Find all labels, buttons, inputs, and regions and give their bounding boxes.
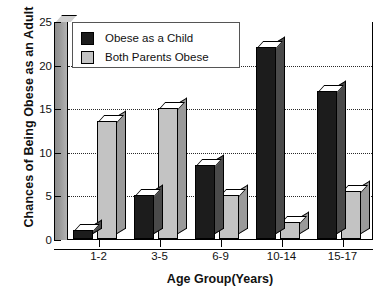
y-tick-label: 20	[0, 60, 52, 72]
bar-front-face	[195, 165, 215, 239]
axis-wall-3d	[54, 22, 68, 240]
bar-side-face	[178, 98, 187, 234]
y-axis-title: Chances of Being Obese as an Adult	[22, 0, 36, 242]
y-tick-label: 0	[0, 234, 52, 246]
y-tick-mark	[54, 22, 61, 23]
legend-item: Both Parents Obese	[81, 48, 231, 66]
bar-front-face	[317, 91, 337, 239]
y-tick-label: 25	[0, 16, 52, 28]
legend-item: Obese as a Child	[81, 29, 231, 47]
bar-front-face	[73, 230, 93, 239]
y-tick-label: 15	[0, 103, 52, 115]
axis-floor	[54, 240, 373, 250]
x-axis-title: Age Group(Years)	[60, 272, 380, 286]
legend-swatch-icon	[81, 51, 94, 64]
legend: Obese as a Child Both Parents Obese	[72, 22, 240, 68]
bar	[317, 91, 337, 239]
x-tick-mark	[221, 240, 222, 247]
x-tick-label: 1-2	[90, 250, 107, 262]
y-tick-mark	[54, 109, 61, 110]
bar	[195, 165, 215, 239]
bar-side-face	[337, 80, 346, 234]
y-tick-label: 10	[0, 147, 52, 159]
y-tick-label: 5	[0, 190, 52, 202]
legend-label: Obese as a Child	[105, 32, 193, 44]
legend-swatch-icon	[81, 32, 94, 45]
bar-front-face	[256, 47, 276, 239]
x-tick-mark	[343, 240, 344, 247]
x-tick-label: 6-9	[212, 250, 229, 262]
x-tick-mark	[99, 240, 100, 247]
x-tick-label: 10-14	[267, 250, 296, 262]
bar-chart: Chances of Being Obese as an Adult Age G…	[0, 0, 390, 300]
x-tick-label: 15-17	[328, 250, 357, 262]
x-tick-mark	[282, 240, 283, 247]
x-tick-mark	[160, 240, 161, 247]
bar	[73, 230, 93, 239]
y-tick-mark	[54, 196, 61, 197]
legend-label: Both Parents Obese	[105, 51, 209, 63]
y-tick-mark	[54, 240, 61, 241]
bar-side-face	[215, 154, 224, 234]
bar-side-face	[276, 37, 285, 234]
bar-side-face	[117, 111, 126, 234]
bar	[134, 195, 154, 239]
bar-front-face	[134, 195, 154, 239]
y-tick-mark	[54, 153, 61, 154]
bar	[256, 47, 276, 239]
y-tick-mark	[54, 66, 61, 67]
x-tick-label: 3-5	[151, 250, 168, 262]
